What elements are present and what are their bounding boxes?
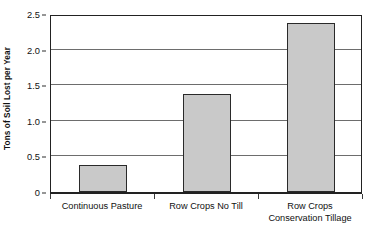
bar — [183, 94, 231, 192]
y-tick-mark — [42, 86, 46, 87]
bars-layer — [51, 16, 361, 192]
x-axis-category-label: Continuous Pasture — [50, 201, 154, 213]
y-tick-label: 2.5 — [27, 10, 40, 20]
y-tick-label: 2.0 — [27, 46, 40, 56]
y-axis-title-text: Tons of Soil Lost per Year — [3, 47, 12, 150]
bar-chart: Tons of Soil Lost per Year 00.51.01.52.0… — [0, 0, 379, 235]
x-tick-mark — [50, 194, 51, 199]
x-axis-line — [50, 192, 362, 194]
y-tick-mark — [42, 50, 46, 51]
y-tick-mark — [42, 193, 46, 194]
x-tick-mark — [154, 194, 155, 199]
x-axis-category-label: Row CropsConservation Tillage — [258, 201, 362, 224]
y-tick-label: 1.0 — [27, 117, 40, 127]
y-tick-label: 0.5 — [27, 152, 40, 162]
y-axis-title: Tons of Soil Lost per Year — [0, 0, 14, 196]
x-tick-mark — [362, 194, 363, 199]
bar — [287, 23, 335, 192]
bar — [79, 165, 127, 192]
y-tick-mark — [42, 15, 46, 16]
y-tick-mark — [42, 121, 46, 122]
y-tick-mark — [42, 157, 46, 158]
y-tick-label: 1.5 — [27, 81, 40, 91]
y-tick-label: 0 — [35, 188, 40, 198]
x-axis-category-label: Row Crops No Till — [154, 201, 258, 213]
x-tick-mark — [258, 194, 259, 199]
plot-area — [50, 15, 362, 193]
y-axis-ticks: 00.51.01.52.02.5 — [14, 0, 46, 200]
x-axis-labels: Continuous PastureRow Crops No TillRow C… — [50, 201, 362, 235]
